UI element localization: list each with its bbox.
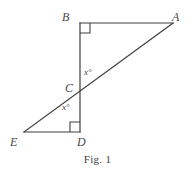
figure-canvas bbox=[0, 0, 195, 172]
vertex-label-a: A bbox=[172, 11, 179, 23]
angle-label-upper-x: x° bbox=[84, 68, 92, 77]
vertex-label-c: C bbox=[65, 82, 73, 94]
figure-caption: Fig. 1 bbox=[0, 153, 195, 165]
figure-segments bbox=[24, 23, 173, 132]
right-angle-mark-B bbox=[80, 23, 90, 33]
vertex-label-b: B bbox=[62, 11, 69, 23]
angle-label-lower-x: x° bbox=[62, 103, 70, 112]
right-angle-mark-D bbox=[70, 122, 80, 132]
vertex-label-e: E bbox=[10, 136, 17, 148]
segment-EA bbox=[24, 23, 173, 132]
geometry-figure: A B C D E x° x° Fig. 1 bbox=[0, 0, 195, 172]
vertex-label-d: D bbox=[77, 136, 86, 148]
